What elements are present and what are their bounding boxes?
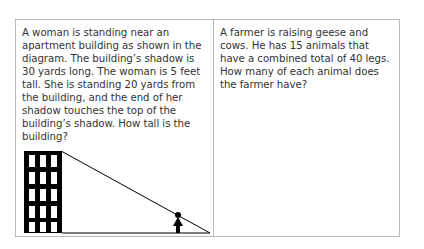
woman-icon [173, 212, 183, 233]
problem-text-shadow: A woman is standing near an apartment bu… [22, 26, 207, 143]
shadow-diagram [18, 151, 211, 234]
problem-text-farmer: A farmer is raising geese and cows. He h… [220, 26, 394, 91]
building-icon [24, 151, 62, 233]
worksheet-table: A woman is standing near an apartment bu… [15, 19, 400, 237]
shadow-line [62, 152, 210, 234]
problem-cell-farmer: A farmer is raising geese and cows. He h… [214, 20, 399, 236]
problem-cell-shadow: A woman is standing near an apartment bu… [16, 20, 213, 236]
